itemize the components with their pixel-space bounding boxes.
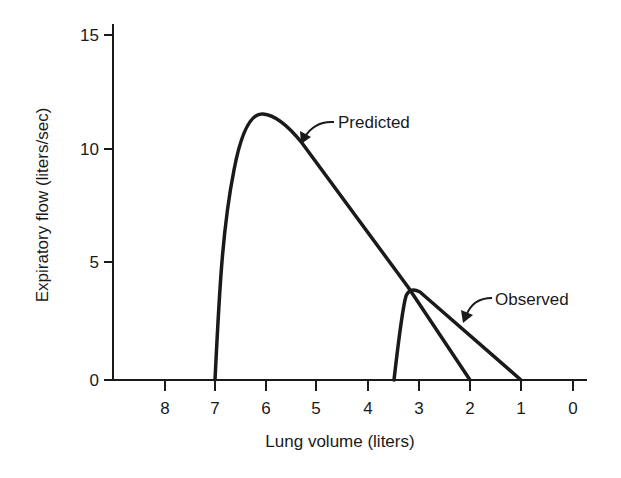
predicted-annotation: Predicted [300,113,410,144]
flow-volume-chart: 15 10 5 0 8 7 6 5 4 3 2 1 0 Lung volume … [0,0,621,478]
x-tick-label: 5 [311,399,320,418]
observed-arrow-icon [466,298,492,316]
y-axis-title: Expiratory flow (liters/sec) [33,108,52,303]
x-tick-label: 1 [516,399,525,418]
y-tick-label: 15 [80,26,99,45]
observed-label: Observed [495,290,569,309]
x-tick-label: 3 [414,399,423,418]
predicted-arrow-icon [304,122,334,138]
y-tick-labels: 15 10 5 0 [80,26,99,390]
x-tick-label: 6 [261,399,270,418]
x-tick-labels: 8 7 6 5 4 3 2 1 0 [160,399,577,418]
x-tick-label: 2 [465,399,474,418]
observed-annotation: Observed [461,290,569,323]
x-tick-label: 4 [363,399,372,418]
axes [104,24,587,391]
y-tick-label: 0 [90,371,99,390]
x-tick-label: 7 [210,399,219,418]
x-tick-label: 8 [160,399,169,418]
x-tick-label: 0 [568,399,577,418]
predicted-label: Predicted [338,113,410,132]
predicted-curve [215,114,470,380]
y-tick-label: 5 [90,253,99,272]
predicted-arrowhead-icon [300,131,311,144]
y-tick-label: 10 [80,140,99,159]
x-axis-title: Lung volume (liters) [265,432,414,451]
